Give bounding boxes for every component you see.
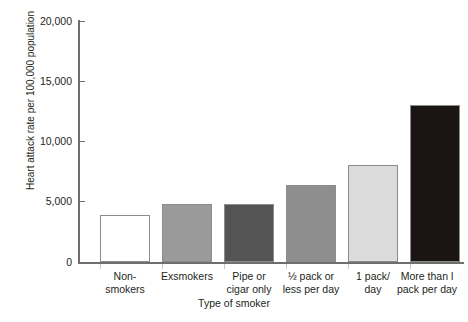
bar-exsmokers[interactable]	[162, 204, 212, 262]
x-label-line1: More than l	[385, 270, 468, 283]
bar-more-than-one-pack[interactable]	[410, 105, 460, 262]
plot-area	[80, 20, 464, 262]
y-tick-0	[78, 262, 85, 263]
y-tick-label-15000: 15,000	[12, 76, 72, 87]
bar-one-pack-per-day[interactable]	[348, 165, 398, 262]
x-label-line2: smokers	[83, 283, 167, 296]
y-tick-label-10000: 10,000	[12, 136, 72, 147]
y-tick-label-20000: 20,000	[12, 16, 72, 27]
x-tick-2	[224, 264, 225, 269]
x-label-line2: pack per day	[385, 283, 468, 296]
y-tick-label-0: 0	[12, 257, 72, 268]
x-axis-line	[78, 262, 464, 264]
x-tick-4	[348, 264, 349, 269]
bar-half-pack-or-less[interactable]	[286, 185, 336, 262]
y-axis-title: Heart attack rate per 100,000 population	[25, 0, 36, 216]
x-tick-1	[162, 264, 163, 269]
x-tick-3	[286, 264, 287, 269]
bar-chart: Heart attack rate per 100,000 population…	[0, 0, 468, 322]
x-tick-5	[410, 264, 411, 269]
x-tick-0	[100, 264, 101, 269]
x-axis-title: Type of smoker	[0, 297, 468, 309]
clipped-chart-title	[120, 0, 400, 8]
bar-pipe-or-cigar-only[interactable]	[224, 204, 274, 262]
bar-non-smokers[interactable]	[100, 215, 150, 262]
y-tick-label-5000: 5,000	[12, 196, 72, 207]
x-label-more-than-one-pack: More than l pack per day	[385, 270, 468, 296]
